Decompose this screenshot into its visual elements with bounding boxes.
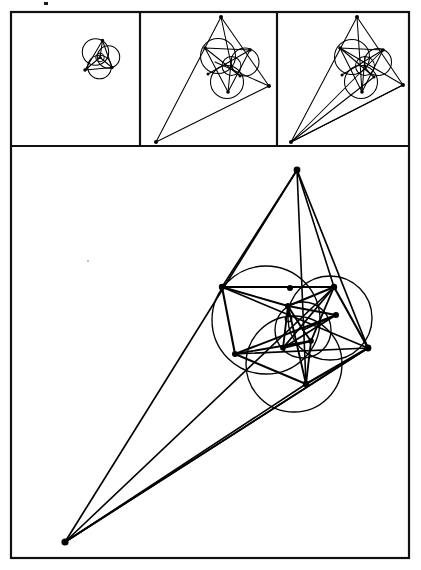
scan-speck — [87, 260, 89, 262]
node-inner-upper-left — [285, 303, 291, 309]
node-apex-right — [365, 345, 372, 352]
node-apex-top — [294, 167, 301, 174]
node-top-tangency — [287, 285, 293, 291]
node-apex-perspective — [61, 538, 68, 545]
figure-canvas — [0, 0, 421, 570]
node-inner-right — [333, 312, 339, 318]
geometry-figure-page — [0, 0, 421, 570]
node-contact-top-right — [331, 284, 337, 290]
node-contact-bottom — [303, 381, 309, 387]
node-contact-bottom-left — [232, 351, 238, 357]
node-inner-lower-left — [280, 345, 286, 351]
node-inner-lower-right — [308, 338, 314, 344]
node-contact-left — [219, 284, 225, 290]
scan-artifact-dot — [44, 2, 48, 5]
